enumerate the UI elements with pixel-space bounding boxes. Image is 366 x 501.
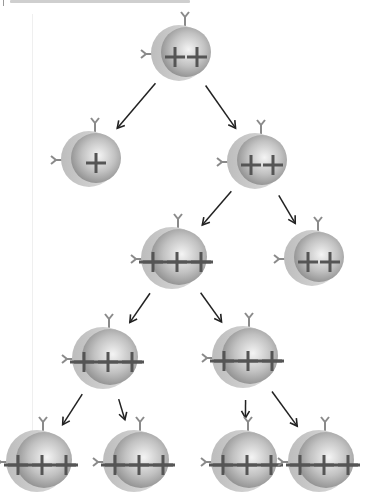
top-receptor-icon — [136, 417, 144, 431]
cell-body — [237, 135, 287, 185]
cell-body — [298, 432, 354, 488]
division-arrow — [272, 392, 297, 427]
top-receptor-icon — [321, 417, 329, 431]
division-arrow — [206, 86, 236, 129]
top-receptor-icon — [181, 12, 189, 26]
cell — [51, 118, 121, 187]
cell — [93, 417, 175, 492]
cell — [217, 120, 287, 189]
cell — [202, 313, 284, 388]
cell — [0, 417, 78, 492]
top-receptor-icon — [105, 314, 113, 328]
cell — [141, 12, 211, 81]
top-receptor-icon — [39, 417, 47, 431]
cell-body — [294, 232, 344, 282]
cell-body — [151, 229, 207, 285]
cell — [201, 417, 283, 492]
cell-body — [113, 432, 169, 488]
division-arrow — [202, 191, 231, 225]
cell-body — [82, 329, 138, 385]
top-receptor-icon — [257, 120, 265, 134]
cell-body — [161, 27, 211, 77]
cell — [274, 217, 344, 286]
division-arrow — [119, 399, 125, 420]
top-receptor-icon — [314, 217, 322, 231]
division-arrow — [117, 83, 155, 128]
top-receptor-icon — [174, 214, 182, 228]
top-receptor-icon — [244, 417, 252, 431]
cell — [131, 214, 213, 289]
division-arrow — [63, 394, 83, 425]
cell-body — [221, 432, 277, 488]
division-arrow — [279, 195, 295, 223]
division-arrow — [130, 293, 150, 322]
top-receptor-icon — [91, 118, 99, 132]
cell-body — [222, 328, 278, 384]
top-receptor-icon — [245, 313, 253, 327]
cell-division-diagram — [0, 0, 366, 501]
cell — [278, 417, 360, 492]
division-arrow — [201, 293, 222, 322]
cell — [62, 314, 144, 389]
cell-body — [16, 432, 72, 488]
